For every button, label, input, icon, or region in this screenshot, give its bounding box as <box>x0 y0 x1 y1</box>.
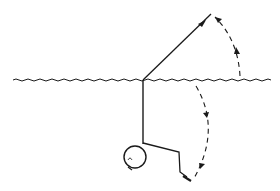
lower-arc-arrow-icon-2 <box>199 163 205 169</box>
upper-rotation-arc <box>215 17 240 76</box>
water-surface-line <box>13 79 271 81</box>
limb-line <box>143 143 187 177</box>
head-circle <box>124 146 146 168</box>
face-mark <box>128 158 132 160</box>
upper-arc-arrow-icon-1 <box>215 17 222 23</box>
lower-arc-arrow-icon-1 <box>203 112 209 118</box>
diagram-canvas <box>0 0 280 191</box>
diagram-svg <box>0 0 280 191</box>
